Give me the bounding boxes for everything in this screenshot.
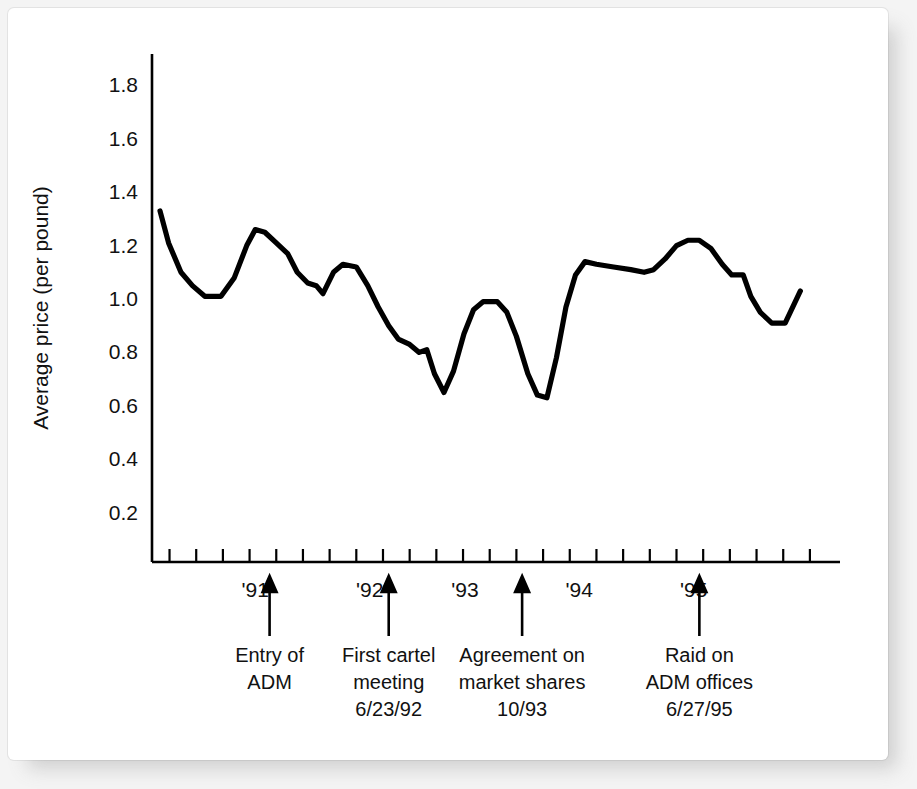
- y-tick-label: 1.4: [109, 180, 139, 203]
- y-tick-label: 0.4: [109, 447, 139, 470]
- y-tick-label: 1.0: [109, 287, 138, 310]
- x-tick-labels: '91'92'93'94'95: [242, 578, 708, 601]
- annotation-label: Agreement on: [459, 644, 585, 666]
- x-axis-tick-marks: [170, 549, 810, 562]
- annotations-group: Entry ofADMFirst cartelmeeting6/23/92Agr…: [235, 576, 753, 720]
- chart-card: Average price (per pound) 0.20.40.60.81.…: [8, 8, 888, 760]
- y-tick-label: 1.6: [109, 127, 138, 150]
- annotation-label: ADM offices: [646, 671, 753, 693]
- y-tick-label: 1.2: [109, 234, 138, 257]
- annotation-label: Raid on: [665, 644, 734, 666]
- annotation-arrow-head: [515, 576, 529, 592]
- y-axis-title: Average price (per pound): [29, 186, 52, 430]
- y-tick-label: 1.8: [109, 73, 138, 96]
- y-tick-label: 0.2: [109, 501, 138, 524]
- annotation-label: ADM: [247, 671, 291, 693]
- x-tick-label: '93: [451, 578, 478, 601]
- annotation-label: First cartel: [342, 644, 435, 666]
- price-series-line: [160, 211, 800, 398]
- price-line-chart: Average price (per pound) 0.20.40.60.81.…: [8, 8, 888, 760]
- y-tick-label: 0.6: [109, 394, 138, 417]
- annotation-label: 6/23/92: [355, 698, 422, 720]
- annotation-label: Entry of: [235, 644, 304, 666]
- annotation-label: 6/27/95: [666, 698, 733, 720]
- y-tick-labels: 0.20.40.60.81.01.21.41.61.8: [109, 73, 139, 523]
- x-tick-label: '92: [356, 578, 383, 601]
- y-tick-label: 0.8: [109, 340, 138, 363]
- annotation-label: 10/93: [497, 698, 547, 720]
- annotation-arrow-head: [382, 576, 396, 592]
- figure-root: Average price (per pound) 0.20.40.60.81.…: [0, 0, 917, 789]
- x-tick-label: '94: [566, 578, 594, 601]
- annotation-label: meeting: [353, 671, 424, 693]
- annotation-label: market shares: [459, 671, 586, 693]
